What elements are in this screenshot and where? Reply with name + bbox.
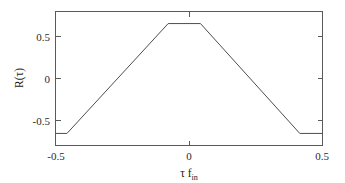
y-axis-title-text: R(τ) xyxy=(13,68,26,88)
x-tick-label-2: 0.5 xyxy=(315,150,329,162)
x-axis-title: τ fin xyxy=(180,167,198,182)
plot-canvas: 0.5 0 -0.5 -0.5 0 0.5 R(τ) τ fin xyxy=(0,0,345,183)
y-tick-label-2: -0.5 xyxy=(33,115,51,127)
y-tick-label-1: 0 xyxy=(45,73,51,85)
plot-frame xyxy=(56,12,323,146)
y-tick-labels: 0.5 0 -0.5 xyxy=(33,31,51,127)
y-axis-title: R(τ) xyxy=(13,68,26,88)
x-axis-title-subscript: in xyxy=(192,173,198,182)
x-tick-label-1: 0 xyxy=(186,150,192,162)
data-curve-autocorrelation xyxy=(56,24,323,134)
x-tick-labels: -0.5 0 0.5 xyxy=(47,150,329,162)
chart-figure: 0.5 0 -0.5 -0.5 0 0.5 R(τ) τ fin xyxy=(0,0,345,183)
x-tick-label-0: -0.5 xyxy=(47,150,65,162)
y-tick-label-0: 0.5 xyxy=(36,31,50,43)
y-tick-marks xyxy=(56,37,323,121)
